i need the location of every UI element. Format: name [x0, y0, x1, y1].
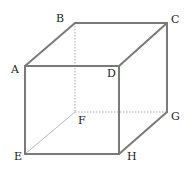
vertex-label-a: A	[10, 63, 20, 76]
vertex-label-d: D	[107, 67, 116, 80]
vertex-label-e: E	[14, 150, 22, 163]
vertex-label-b: B	[56, 12, 64, 25]
vertex-label-c: C	[171, 13, 179, 26]
vertex-label-h: H	[127, 150, 137, 163]
edge-hg	[119, 112, 167, 154]
vertex-label-g: G	[171, 110, 180, 123]
vertex-label-f: F	[78, 114, 86, 127]
cube-diagram: B C A D F G E H	[0, 0, 190, 174]
edge-ef-hidden	[25, 112, 75, 154]
edge-cd	[119, 23, 167, 66]
edge-ab	[25, 23, 75, 66]
